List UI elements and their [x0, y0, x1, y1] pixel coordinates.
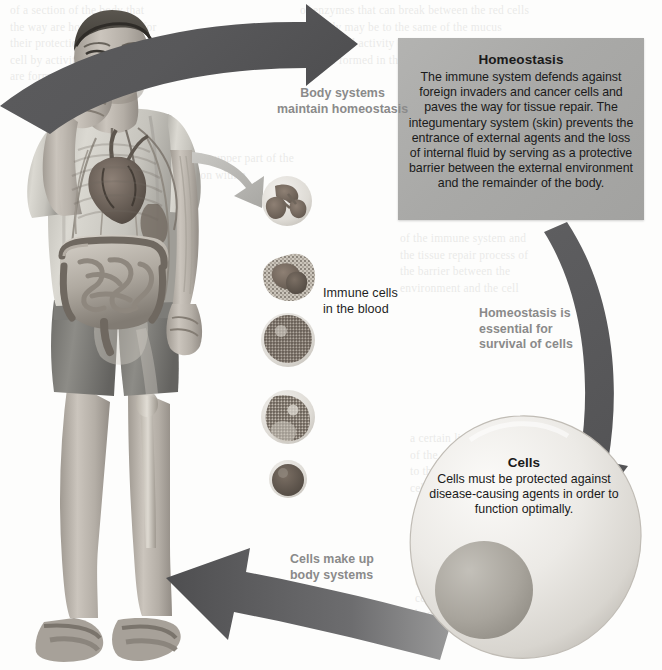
- homeostasis-title: Homeostasis: [408, 52, 634, 67]
- figure-canvas: of a section of the body that the way ar…: [0, 0, 662, 670]
- cells-panel: Cells Cells must be protected against di…: [413, 455, 635, 518]
- label-homeostasis-essential: Homeostasis is essential for survival of…: [479, 306, 573, 353]
- label-body-systems: Body systems maintain homeostasis: [277, 86, 408, 117]
- homeostasis-panel: Homeostasis The immune system defends ag…: [398, 38, 644, 220]
- cell-membrane: [410, 416, 641, 658]
- cell-nucleus: [435, 541, 533, 639]
- label-immune-cells: Immune cells in the blood: [323, 285, 398, 317]
- homeostasis-body: The immune system defends against foreig…: [408, 70, 634, 192]
- cells-title: Cells: [413, 455, 635, 470]
- label-cells-make-up: Cells make up body systems: [290, 552, 374, 583]
- cells-body: Cells must be protected against disease-…: [413, 472, 635, 518]
